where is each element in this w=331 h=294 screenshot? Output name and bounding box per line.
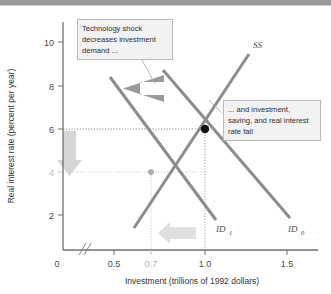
interest-rate-fall-arrow [57, 131, 82, 176]
equilibrium-initial-dot [201, 125, 209, 133]
x-tick-label-0.7: 0.7 [145, 259, 158, 269]
callout-leader-lines [142, 60, 222, 113]
investment-fall-arrow [158, 222, 196, 244]
x-tick-labels: 0 0.5 0.7 1.0 1.5 [54, 259, 293, 269]
y-tick-label-4: 4 [49, 168, 54, 178]
equilibrium-new-dot [148, 169, 154, 175]
y-tick-label-6: 6 [49, 125, 54, 135]
y-tick-labels: 10 8 6 4 2 [44, 38, 54, 221]
investment-fall-callout: ... and investment, saving, and real int… [223, 100, 321, 141]
x-tick-label-1.5: 1.5 [281, 259, 294, 269]
y-axis-title: Real interest rate (percent per year) [6, 69, 16, 204]
demand-shift-arrow [123, 75, 164, 102]
x-tick-label-1.0: 1.0 [199, 259, 212, 269]
chart-figure: 10 8 6 4 2 0 0.5 0.7 1.0 1.5 Investment … [0, 0, 331, 294]
curve-label-id0-sub: 0 [301, 229, 305, 236]
x-axis-ticks [114, 250, 287, 255]
x-tick-label-0.5: 0.5 [108, 259, 121, 269]
y-axis-ticks [58, 42, 63, 215]
technology-shock-callout: Technology shock decreases investment de… [77, 19, 173, 60]
x-axis-title: Investment (trillions of 1992 dollars) [125, 276, 259, 286]
curve-label-ss-text: SS [253, 40, 263, 50]
curve-label-id1: ID 1 [215, 224, 232, 236]
y-tick-label-2: 2 [49, 211, 54, 221]
curve-label-id1-text: ID [215, 224, 226, 234]
y-tick-label-10: 10 [44, 38, 54, 48]
x-tick-label-0: 0 [54, 259, 59, 269]
curve-label-id0: ID 0 [287, 224, 305, 236]
curve-label-id1-sub: 1 [229, 229, 232, 236]
curve-label-ss: SS [253, 40, 263, 50]
curve-label-id0-text: ID [287, 224, 298, 234]
y-tick-label-8: 8 [49, 82, 54, 92]
effect-arrows [57, 131, 196, 244]
curve-id0 [163, 70, 290, 218]
curves [110, 54, 290, 228]
x-axis-break-mark [79, 243, 91, 255]
